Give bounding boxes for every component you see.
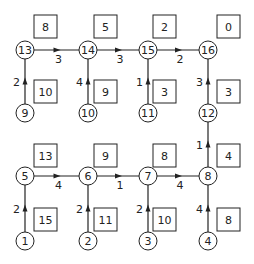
node-2: 2 bbox=[79, 232, 97, 250]
arrow-icon bbox=[86, 205, 91, 212]
svg-text:11: 11 bbox=[141, 107, 155, 120]
svg-text:8: 8 bbox=[205, 170, 212, 183]
edge-15-16: 2 bbox=[157, 48, 199, 67]
arrow-icon bbox=[146, 78, 151, 85]
value-box: 10 bbox=[34, 80, 57, 103]
edge-2-6: 2 bbox=[76, 185, 91, 232]
edge-weight: 4 bbox=[76, 76, 83, 89]
edge-10-14: 4 bbox=[76, 59, 91, 104]
svg-text:2: 2 bbox=[85, 235, 92, 248]
svg-text:3: 3 bbox=[161, 86, 168, 99]
arrow-icon bbox=[23, 205, 28, 212]
edges: 241333212224414 bbox=[13, 48, 211, 233]
svg-text:14: 14 bbox=[81, 44, 95, 57]
edge-3-7: 2 bbox=[136, 185, 151, 232]
node-14: 14 bbox=[79, 41, 97, 59]
svg-text:3: 3 bbox=[145, 235, 152, 248]
value-box: 8 bbox=[217, 208, 240, 231]
value-box: 3 bbox=[153, 80, 176, 103]
node-11: 11 bbox=[139, 104, 157, 122]
svg-text:8: 8 bbox=[161, 150, 168, 163]
value-box: 13 bbox=[34, 144, 57, 167]
svg-text:10: 10 bbox=[39, 86, 53, 99]
svg-text:0: 0 bbox=[225, 21, 232, 34]
edge-12-16: 3 bbox=[196, 59, 211, 104]
edge-weight: 4 bbox=[55, 179, 62, 192]
svg-text:8: 8 bbox=[42, 21, 49, 34]
grid-graph-diagram: 241333212224414 852010933413981511108 12… bbox=[0, 0, 254, 264]
node-4: 4 bbox=[199, 232, 217, 250]
edge-weight: 4 bbox=[196, 203, 203, 216]
value-box: 0 bbox=[217, 15, 240, 38]
edge-8-12: 1 bbox=[196, 122, 211, 167]
edge-6-7: 1 bbox=[97, 174, 139, 193]
edge-weight: 2 bbox=[177, 53, 184, 66]
node-13: 13 bbox=[16, 41, 34, 59]
value-box: 5 bbox=[94, 15, 117, 38]
svg-text:1: 1 bbox=[22, 235, 29, 248]
svg-text:6: 6 bbox=[85, 170, 92, 183]
value-box: 8 bbox=[34, 15, 57, 38]
arrow-icon bbox=[54, 174, 61, 179]
node-7: 7 bbox=[139, 167, 157, 185]
svg-text:3: 3 bbox=[225, 86, 232, 99]
arrow-icon bbox=[23, 78, 28, 85]
svg-text:8: 8 bbox=[225, 214, 232, 227]
svg-text:9: 9 bbox=[102, 86, 109, 99]
edge-weight: 2 bbox=[13, 76, 20, 89]
svg-text:16: 16 bbox=[201, 44, 215, 57]
svg-text:4: 4 bbox=[225, 150, 232, 163]
arrow-icon bbox=[115, 48, 122, 53]
value-box: 8 bbox=[153, 144, 176, 167]
arrow-icon bbox=[146, 205, 151, 212]
edge-weight: 2 bbox=[13, 203, 20, 216]
edge-13-14: 3 bbox=[34, 48, 79, 67]
svg-text:12: 12 bbox=[201, 107, 215, 120]
arrow-icon bbox=[115, 174, 122, 179]
node-6: 6 bbox=[79, 167, 97, 185]
svg-text:15: 15 bbox=[39, 214, 53, 227]
node-16: 16 bbox=[199, 41, 217, 59]
edge-weight: 1 bbox=[136, 76, 143, 89]
svg-text:13: 13 bbox=[39, 150, 53, 163]
edge-4-8: 4 bbox=[196, 185, 211, 232]
svg-text:2: 2 bbox=[161, 21, 168, 34]
arrow-icon bbox=[175, 48, 182, 53]
edge-1-5: 2 bbox=[13, 185, 28, 232]
value-box: 3 bbox=[217, 80, 240, 103]
node-15: 15 bbox=[139, 41, 157, 59]
edge-weight: 1 bbox=[117, 179, 124, 192]
edge-weight: 4 bbox=[177, 179, 184, 192]
svg-text:7: 7 bbox=[145, 170, 152, 183]
arrow-icon bbox=[206, 205, 211, 212]
arrow-icon bbox=[175, 174, 182, 179]
svg-text:5: 5 bbox=[102, 21, 109, 34]
value-box: 4 bbox=[217, 144, 240, 167]
svg-text:9: 9 bbox=[22, 107, 29, 120]
svg-text:11: 11 bbox=[99, 214, 113, 227]
node-5: 5 bbox=[16, 167, 34, 185]
value-box: 11 bbox=[94, 208, 117, 231]
edge-14-15: 3 bbox=[97, 48, 139, 67]
edge-5-6: 4 bbox=[34, 174, 79, 193]
arrow-icon bbox=[206, 78, 211, 85]
edge-weight: 2 bbox=[76, 203, 83, 216]
value-box: 9 bbox=[94, 144, 117, 167]
edge-weight: 3 bbox=[55, 53, 62, 66]
edge-7-8: 4 bbox=[157, 174, 199, 193]
svg-text:10: 10 bbox=[81, 107, 95, 120]
svg-text:10: 10 bbox=[158, 214, 172, 227]
arrow-icon bbox=[206, 141, 211, 148]
svg-text:15: 15 bbox=[141, 44, 155, 57]
svg-text:13: 13 bbox=[18, 44, 32, 57]
node-12: 12 bbox=[199, 104, 217, 122]
arrow-icon bbox=[54, 48, 61, 53]
value-box: 15 bbox=[34, 208, 57, 231]
svg-text:4: 4 bbox=[205, 235, 212, 248]
value-box: 9 bbox=[94, 80, 117, 103]
edge-11-15: 1 bbox=[136, 59, 151, 104]
svg-text:9: 9 bbox=[102, 150, 109, 163]
svg-text:5: 5 bbox=[22, 170, 29, 183]
edge-weight: 1 bbox=[196, 139, 203, 152]
value-box: 2 bbox=[153, 15, 176, 38]
